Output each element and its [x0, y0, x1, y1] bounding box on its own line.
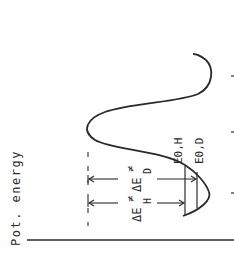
- svg-text:≠: ≠: [125, 196, 136, 202]
- svg-text:ΔE: ΔE: [130, 178, 144, 192]
- label-delta-e-d: ΔE ≠ D: [125, 166, 153, 192]
- axis-label: Pot. energy: [9, 150, 23, 246]
- coordinate-ticks: [231, 76, 234, 193]
- svg-text:≠: ≠: [125, 166, 136, 172]
- label-delta-e-h: ΔE ≠ H: [125, 196, 153, 222]
- potential-energy-diagram: Pot. energy ΔE ≠ H ΔE ≠ D E0,H E0,D: [0, 0, 234, 277]
- svg-text:H: H: [142, 198, 153, 204]
- potential-curve: [87, 54, 211, 216]
- svg-text:ΔE: ΔE: [130, 208, 144, 222]
- label-e0-d: E0,D: [193, 138, 206, 165]
- arrow-delta-e-h: [88, 199, 184, 207]
- label-e0-h: E0,H: [172, 138, 185, 165]
- svg-text:D: D: [142, 168, 153, 174]
